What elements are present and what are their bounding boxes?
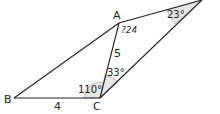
label-c: C	[93, 100, 101, 113]
angle-label-23: 23°	[167, 9, 185, 20]
angle-label-110: 110°	[78, 84, 102, 95]
side-bc-length: 4	[54, 100, 61, 113]
side-ca-length: 5	[114, 47, 121, 60]
handwritten-annotation: ?24	[121, 25, 138, 35]
geometry-diagram: A B C 4 5 110° 33° 23° ?24	[0, 0, 220, 114]
label-a: A	[113, 9, 121, 22]
angle-label-33: 33°	[107, 67, 125, 78]
label-b: B	[4, 93, 12, 106]
